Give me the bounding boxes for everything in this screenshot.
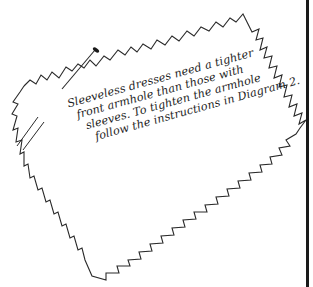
pinked-fabric-swatch bbox=[0, 0, 313, 287]
page-border-rule bbox=[306, 0, 309, 287]
pin-shaft bbox=[62, 50, 95, 89]
notch-mark-2 bbox=[23, 122, 44, 150]
notch-mark-1 bbox=[17, 117, 38, 146]
pinked-edge-outline bbox=[12, 14, 306, 280]
illustration-page: Sleeveless dresses need a tighter front … bbox=[0, 0, 313, 287]
